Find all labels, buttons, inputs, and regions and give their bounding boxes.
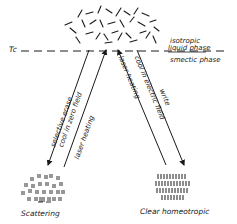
random-rods-icon — [65, 6, 159, 43]
diagram-canvas: Tc isotropic liquid phase smectic phase … — [0, 0, 237, 224]
clear-homeotropic-label: Clear homeotropic — [140, 208, 209, 216]
liquid-phase-label: liquid phase — [168, 45, 211, 52]
scattering-label: Scattering — [21, 210, 60, 218]
diagram-graphics — [0, 0, 237, 224]
aligned-rods-icon — [156, 174, 189, 200]
smectic-phase-label: smectic phase — [170, 57, 221, 64]
scattering-focal-conic-icon — [22, 174, 64, 202]
tc-label: Tc — [9, 46, 17, 54]
